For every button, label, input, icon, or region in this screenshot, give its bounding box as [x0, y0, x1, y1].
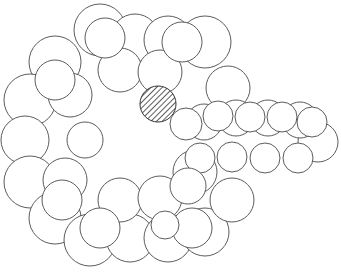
atom-sphere [42, 180, 82, 220]
atom-sphere [67, 122, 103, 158]
atom-sphere [162, 22, 202, 62]
chain-atom-sphere [170, 108, 202, 140]
hatched-atom [140, 86, 176, 122]
atom-sphere [210, 178, 254, 222]
chain-atom-sphere [203, 101, 233, 131]
chain-atom-sphere [235, 102, 265, 132]
chain-atom-sphere [267, 102, 297, 132]
atom-sphere [85, 18, 125, 58]
atom-sphere [80, 208, 120, 248]
chain-atom-sphere [283, 143, 313, 173]
atom-sphere [151, 211, 179, 239]
atom-sphere [35, 60, 75, 100]
chain-atom-sphere [297, 107, 327, 137]
chain-atom-sphere [250, 143, 280, 173]
chain-atom-sphere [217, 142, 247, 172]
chain-atom-sphere [170, 168, 206, 204]
hatched-atom-sphere [140, 86, 176, 122]
molecular-model-diagram [0, 0, 341, 272]
